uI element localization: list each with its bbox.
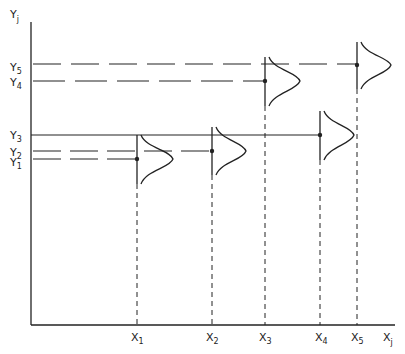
distribution-x2 <box>210 127 246 175</box>
x2-label: X2 <box>206 331 219 346</box>
regression-distribution-diagram: Yj Xj Y5 Y4 Y3 Y2 Y1 <box>0 0 405 354</box>
y-axis-label: Yj <box>9 8 19 24</box>
x-axis-label: Xj <box>383 331 393 347</box>
data-point-x4 <box>318 133 322 137</box>
data-point-x2 <box>210 149 214 153</box>
y4-label: Y4 <box>9 76 22 91</box>
y5-label: Y5 <box>9 61 22 76</box>
x3-label: X3 <box>259 331 272 346</box>
distribution-x4 <box>318 111 354 160</box>
x5-label: X5 <box>351 331 364 346</box>
data-point-x5 <box>355 63 359 67</box>
x1-label: X1 <box>131 331 144 346</box>
data-point-x1 <box>135 157 139 161</box>
distribution-x1 <box>135 135 173 184</box>
data-point-x3 <box>263 79 267 83</box>
x4-label: X4 <box>315 331 328 346</box>
y3-label: Y3 <box>9 129 22 144</box>
distribution-x5 <box>355 42 391 89</box>
